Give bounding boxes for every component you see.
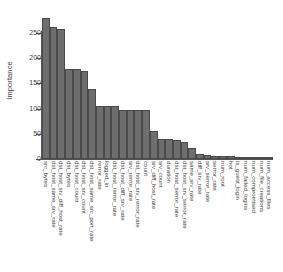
bar — [258, 157, 266, 159]
bar — [96, 106, 104, 159]
bar — [242, 157, 250, 159]
bar — [50, 27, 58, 159]
x-axis-tick-label-text: diff_srv_rate — [196, 161, 203, 194]
bar — [111, 106, 119, 159]
x-axis-tick-label-text: count — [142, 161, 149, 176]
feature-importance-chart: Importance 050100150200250 src_bytesdst_… — [0, 0, 283, 272]
x-axis-tick-label: num_access_files — [265, 161, 273, 271]
x-axis-tick-label-text: dst_host_serror_rate — [173, 161, 180, 217]
y-axis-tick-label: 0 — [7, 155, 41, 162]
bar — [134, 110, 142, 159]
x-axis-tick-label-text: src_bytes — [42, 161, 49, 187]
x-axis-tick-label: dst_host_rerror_rate — [111, 161, 119, 271]
x-axis-tick-label-text: dst_host_same_src_port_rate — [89, 161, 96, 242]
x-axis-tick-label-text: srv_diff_host_rate — [150, 161, 157, 209]
x-axis-line — [41, 159, 273, 160]
bar — [88, 89, 96, 159]
bar — [165, 139, 173, 159]
x-axis-tick-labels: src_bytesdst_host_same_srv_ratedst_host_… — [42, 161, 273, 271]
x-axis-tick-label-text: dst_host_count — [73, 161, 80, 202]
bar — [119, 110, 127, 159]
x-axis-tick-label-text: num_access_files — [266, 161, 273, 209]
x-axis-tick-label: dst_host_srv_count — [81, 161, 89, 271]
x-axis-tick-label: srv_serror_rate — [204, 161, 212, 271]
x-axis-tick-label-text: num_failed_logins — [243, 161, 250, 210]
x-axis-tick-label: dst_host_count — [73, 161, 81, 271]
x-axis-tick-label: dst_host_srv_rerror_rate — [134, 161, 142, 271]
x-axis-tick-label-text: dst_host_srv_rerror_rate — [135, 161, 142, 228]
x-axis-tick-label-text: dst_bytes — [65, 161, 72, 187]
x-axis-tick-label: dst_host_same_src_port_rate — [88, 161, 96, 271]
bar — [142, 110, 150, 159]
x-axis-tick-label-text: srv_serror_rate — [204, 161, 211, 202]
y-axis-tick: 50 — [0, 134, 41, 135]
y-axis-tick-label: 100 — [7, 105, 41, 112]
x-axis-tick-label-text: dst_host_srv_serror_rate — [181, 161, 188, 229]
x-axis-tick-label-text: dst_host_srv_count — [81, 161, 88, 214]
x-axis-tick-label-text: hot — [227, 161, 234, 169]
y-axis-tick: 200 — [0, 58, 41, 59]
x-axis-tick-label-text: dst_host_srv_diff_host_rate — [58, 161, 65, 236]
x-axis-tick-label: diff_srv_rate — [196, 161, 204, 271]
x-axis-tick-label-text: srv_count — [158, 161, 165, 187]
x-axis-tick-label-text: dst_host_diff_srv_rate — [119, 161, 126, 221]
x-axis-tick-label: dst_host_same_srv_rate — [50, 161, 58, 271]
x-axis-tick-label-text: dst_host_same_srv_rate — [50, 161, 57, 228]
x-axis-tick-label: dst_host_srv_diff_host_rate — [57, 161, 65, 271]
x-axis-tick-label: count — [142, 161, 150, 271]
y-axis-tick: 100 — [0, 109, 41, 110]
x-axis-tick-label-text: is_guest_login — [235, 161, 242, 200]
x-axis-tick-label: srv_diff_host_rate — [150, 161, 158, 271]
y-axis-tick-label: 250 — [7, 29, 41, 36]
x-axis-tick-label: num_compromised — [250, 161, 258, 271]
bar — [196, 154, 204, 159]
x-axis-tick-label: hot — [227, 161, 235, 271]
bar — [250, 157, 258, 159]
bar — [127, 110, 135, 159]
bar — [104, 106, 112, 159]
bar — [188, 148, 196, 159]
y-axis-tick-label: 50 — [7, 130, 41, 137]
x-axis-tick-label: num_root — [219, 161, 227, 271]
x-axis-tick-label: num_file_creations — [258, 161, 266, 271]
x-axis-tick-label: rerror_rate — [96, 161, 104, 271]
plot-area — [42, 18, 273, 159]
bar — [173, 140, 181, 159]
x-axis-tick-label-text: num_root — [220, 161, 227, 187]
bar-series — [42, 18, 273, 159]
x-axis-tick-label: is_guest_login — [235, 161, 243, 271]
x-axis-tick-label-text: srv_rerror_rate — [127, 161, 134, 201]
x-axis-tick-label: num_failed_logins — [242, 161, 250, 271]
x-axis-tick-label: serror_rate — [211, 161, 219, 271]
y-axis-tick: 0 — [0, 159, 41, 160]
bar — [42, 18, 50, 159]
x-axis-tick-label: same_srv_rate — [188, 161, 196, 271]
bar — [265, 157, 273, 159]
x-axis-tick-label: dst_bytes — [65, 161, 73, 271]
y-axis-tick-label: 150 — [7, 79, 41, 86]
x-axis-tick-label-text: num_file_creations — [258, 161, 265, 212]
x-axis-tick-label-text: dst_host_rerror_rate — [112, 161, 119, 216]
x-axis-tick-label: dst_host_srv_serror_rate — [181, 161, 189, 271]
x-axis-tick-label: srv_rerror_rate — [127, 161, 135, 271]
x-axis-tick-label: duration — [165, 161, 173, 271]
bar — [81, 71, 89, 159]
bar — [211, 156, 219, 159]
y-axis-tick: 250 — [0, 33, 41, 34]
x-axis-tick-label: logged_in — [104, 161, 112, 271]
x-axis-tick-label-text: num_compromised — [250, 161, 257, 213]
x-axis-tick-label-text: logged_in — [104, 161, 111, 187]
bar — [57, 29, 65, 159]
x-axis-tick-label: src_bytes — [42, 161, 50, 271]
bar — [181, 142, 189, 159]
x-axis-tick-label-text: duration — [166, 161, 173, 183]
x-axis-tick-label-text: rerror_rate — [96, 161, 103, 190]
bar — [73, 69, 81, 159]
bar — [65, 69, 73, 159]
x-axis-tick-label: dst_host_diff_srv_rate — [119, 161, 127, 271]
y-axis-tick: 150 — [0, 83, 41, 84]
x-axis-tick-label-text: serror_rate — [212, 161, 219, 191]
bar — [158, 139, 166, 159]
x-axis-tick-label-text: same_srv_rate — [189, 161, 196, 201]
x-axis-tick-label: dst_host_serror_rate — [173, 161, 181, 271]
